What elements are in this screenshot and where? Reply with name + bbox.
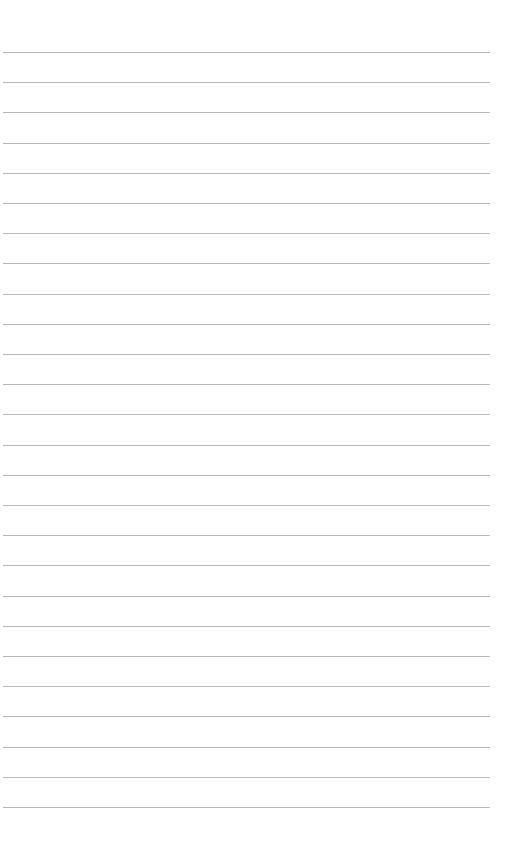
ruled-line bbox=[3, 173, 490, 174]
ruled-line bbox=[3, 294, 490, 295]
ruled-line bbox=[3, 565, 490, 566]
ruled-line bbox=[3, 233, 490, 234]
ruled-line bbox=[3, 686, 490, 687]
ruled-line bbox=[3, 535, 490, 536]
ruled-line bbox=[3, 82, 490, 83]
ruled-line bbox=[3, 384, 490, 385]
ruled-line bbox=[3, 263, 490, 264]
ruled-line bbox=[3, 112, 490, 113]
ruled-line bbox=[3, 445, 490, 446]
ruled-line bbox=[3, 475, 490, 476]
ruled-line bbox=[3, 626, 490, 627]
ruled-line bbox=[3, 505, 490, 506]
ruled-line bbox=[3, 656, 490, 657]
ruled-line bbox=[3, 354, 490, 355]
ruled-line bbox=[3, 324, 490, 325]
ruled-line bbox=[3, 596, 490, 597]
lined-paper-page bbox=[0, 0, 515, 848]
ruled-line bbox=[3, 777, 490, 778]
ruled-line bbox=[3, 807, 490, 808]
ruled-line bbox=[3, 716, 490, 717]
ruled-line bbox=[3, 203, 490, 204]
ruled-line bbox=[3, 414, 490, 415]
ruled-line bbox=[3, 747, 490, 748]
ruled-line bbox=[3, 52, 490, 53]
ruled-line bbox=[3, 143, 490, 144]
